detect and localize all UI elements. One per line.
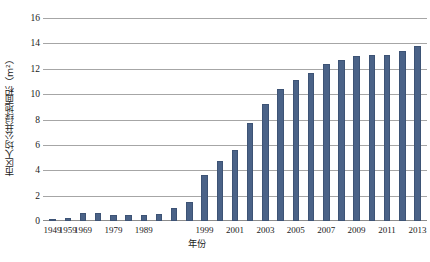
y-tick-label: 16 <box>18 13 40 23</box>
y-tick-label: 2 <box>18 191 40 201</box>
bar-slot <box>227 18 242 221</box>
y-tick-label: 8 <box>18 115 40 125</box>
y-tick-label: 12 <box>18 64 40 74</box>
bar-slot <box>349 18 364 221</box>
x-tick-label: 2011 <box>370 224 404 236</box>
bar <box>49 219 56 221</box>
bar <box>201 175 208 221</box>
y-tick-label: 14 <box>18 38 40 48</box>
x-tick-label: 1969 <box>66 224 100 236</box>
bar <box>110 215 117 221</box>
bar <box>293 80 300 221</box>
bar-slot <box>395 18 410 221</box>
bar <box>171 208 178 221</box>
bar <box>384 55 391 221</box>
bar-chart: 市区人均公共绿地面积（m²） 0246810121416 19491959196… <box>0 0 430 262</box>
x-tick-label: 2001 <box>218 224 252 236</box>
bar <box>369 55 376 221</box>
y-tick-label: 6 <box>18 140 40 150</box>
y-axis-title: 市区人均公共绿地面积（m²） <box>2 8 18 224</box>
bar-slot <box>379 18 394 221</box>
bar <box>308 73 315 221</box>
bar-slot <box>319 18 334 221</box>
bar-slot <box>334 18 349 221</box>
bar <box>247 123 254 221</box>
bar-slot <box>303 18 318 221</box>
x-tick-label: 1989 <box>127 224 161 236</box>
bar-slot <box>197 18 212 221</box>
bar-slot <box>91 18 106 221</box>
bar-slot <box>75 18 90 221</box>
bar <box>95 213 102 221</box>
x-tick-label: 2013 <box>400 224 430 236</box>
bar <box>217 161 224 221</box>
bar <box>141 215 148 221</box>
y-tick-label: 10 <box>18 89 40 99</box>
bar <box>186 202 193 221</box>
x-axis-title: 年份 <box>188 238 206 250</box>
bar-slot <box>288 18 303 221</box>
bar-slot <box>410 18 425 221</box>
x-axis-tick-labels: 1949195919691979198919992001200320052007… <box>43 224 427 238</box>
bar-slot <box>151 18 166 221</box>
bar-slot <box>60 18 75 221</box>
bar-slot <box>136 18 151 221</box>
bar <box>338 60 345 221</box>
bar-slot <box>106 18 121 221</box>
bar-slot <box>182 18 197 221</box>
x-tick-label: 2005 <box>279 224 313 236</box>
x-tick-label: 2007 <box>309 224 343 236</box>
bar <box>156 214 163 221</box>
bar <box>80 213 87 221</box>
bar <box>232 150 239 221</box>
bar <box>65 218 72 221</box>
bar-slot <box>273 18 288 221</box>
bar <box>277 89 284 221</box>
bar <box>353 56 360 221</box>
bar-slot <box>121 18 136 221</box>
bar <box>399 51 406 221</box>
bar-slot <box>45 18 60 221</box>
bar-slot <box>364 18 379 221</box>
y-axis-tick-labels: 0246810121416 <box>18 0 40 262</box>
bar-slot <box>212 18 227 221</box>
plot-area <box>43 18 427 221</box>
y-tick-label: 4 <box>18 165 40 175</box>
bar <box>323 64 330 221</box>
bar <box>414 46 421 221</box>
x-tick-label: 2009 <box>340 224 374 236</box>
bar <box>262 104 269 221</box>
x-tick-label: 1979 <box>96 224 130 236</box>
bar-slot <box>243 18 258 221</box>
x-tick-label: 1999 <box>188 224 222 236</box>
bar-slot <box>167 18 182 221</box>
bar <box>125 215 132 221</box>
x-tick-label: 2003 <box>248 224 282 236</box>
bar-slot <box>258 18 273 221</box>
bars-layer <box>43 18 427 221</box>
